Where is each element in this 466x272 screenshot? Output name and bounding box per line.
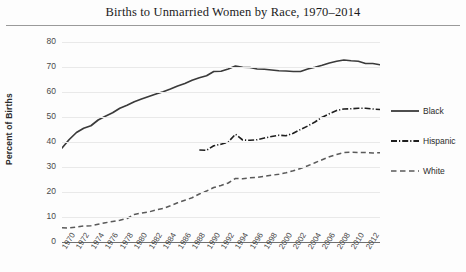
x-tick-2012: 2012 (364, 231, 381, 251)
legend-label-hispanic: Hispanic (423, 136, 456, 146)
x-tick-1998: 1998 (262, 231, 279, 251)
x-tick-1982: 1982 (147, 231, 164, 251)
x-tick-2006: 2006 (320, 231, 337, 251)
x-tick-1984: 1984 (161, 231, 178, 251)
x-tick-1980: 1980 (132, 231, 149, 251)
x-tick-1996: 1996 (248, 231, 265, 251)
x-tick-1974: 1974 (89, 231, 106, 251)
x-tick-2008: 2008 (335, 231, 352, 251)
x-tick-1988: 1988 (190, 231, 207, 251)
legend-line-dashdot-icon (391, 136, 419, 146)
x-tick-1976: 1976 (103, 231, 120, 251)
legend-item-white: White (391, 156, 466, 186)
x-tick-2002: 2002 (291, 231, 308, 251)
legend-item-hispanic: Hispanic (391, 126, 466, 156)
legend-item-black: Black (391, 96, 466, 126)
x-tick-1992: 1992 (219, 231, 236, 251)
chart-figure: Births to Unmarried Women by Race, 1970–… (0, 0, 466, 272)
x-tick-1994: 1994 (233, 231, 250, 251)
x-tick-1978: 1978 (118, 231, 135, 251)
legend-line-solid-icon (391, 106, 419, 116)
x-tick-2004: 2004 (306, 231, 323, 251)
x-tick-1990: 1990 (205, 231, 222, 251)
x-tick-1972: 1972 (74, 231, 91, 251)
x-tick-2010: 2010 (349, 231, 366, 251)
x-tick-1986: 1986 (176, 231, 193, 251)
chart-legend: Black Hispanic White (391, 96, 466, 186)
legend-line-dashed-icon (391, 166, 419, 176)
x-tick-1970: 1970 (60, 231, 77, 251)
legend-label-black: Black (423, 106, 444, 116)
legend-label-white: White (423, 166, 445, 176)
x-tick-2000: 2000 (277, 231, 294, 251)
